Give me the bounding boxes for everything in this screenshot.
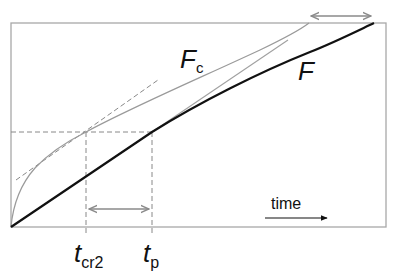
label-tp-sub: p <box>150 254 159 271</box>
label-tcr2-sub: cr2 <box>81 254 103 271</box>
label-fc: Fc <box>180 46 203 75</box>
diagram-canvas <box>0 0 400 277</box>
tangent-line-f <box>152 40 288 132</box>
label-fc-sub: c <box>196 59 204 76</box>
label-time: time <box>271 196 301 212</box>
label-f: F <box>298 58 314 84</box>
label-fc-main: F <box>180 44 196 74</box>
label-tp: tp <box>143 240 159 271</box>
label-tcr2: tcr2 <box>74 240 103 271</box>
